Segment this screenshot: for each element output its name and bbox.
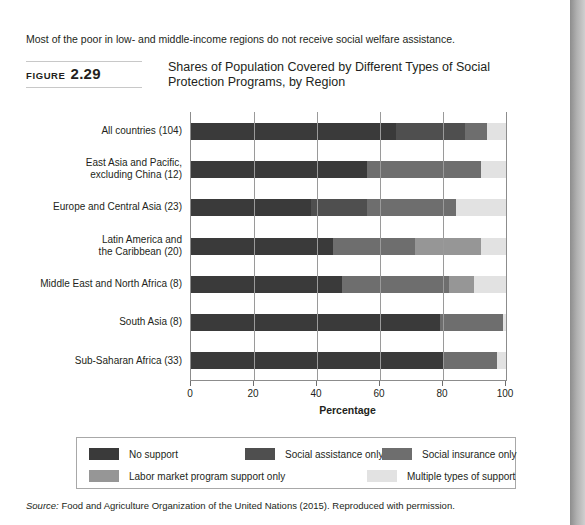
legend-swatch — [89, 448, 119, 460]
legend-label: Social assistance only — [285, 449, 383, 460]
x-axis-title: Percentage — [190, 404, 505, 416]
figure-label-word: FIGURE — [26, 70, 66, 81]
page-edge-shadow — [570, 0, 585, 525]
figure-header: FIGURE2.29 Shares of Population Covered … — [26, 60, 546, 90]
x-axis-tick-label: 20 — [233, 388, 273, 399]
legend-item[interactable]: Social insurance only — [382, 444, 517, 464]
stacked-bar[interactable] — [191, 276, 506, 293]
category-label: Latin America andthe Caribbean (20) — [26, 234, 182, 259]
bar-segment — [191, 161, 367, 178]
category-label: Sub-Saharan Africa (33) — [26, 355, 182, 368]
bar-segment — [487, 123, 506, 140]
headline-text: Most of the poor in low- and middle-inco… — [26, 32, 546, 46]
stacked-bar[interactable] — [191, 238, 506, 255]
bar-segment — [342, 276, 449, 293]
category-label-line: Middle East and North Africa (8) — [26, 278, 182, 291]
category-label: Middle East and North Africa (8) — [26, 278, 182, 291]
bar-segment — [367, 161, 480, 178]
legend-item[interactable]: Multiple types of support — [367, 466, 515, 486]
category-axis-labels: All countries (104)East Asia and Pacific… — [26, 112, 182, 380]
bar-row — [191, 238, 506, 255]
bar-segment — [333, 238, 415, 255]
bar-row — [191, 161, 506, 178]
legend-item[interactable]: No support — [89, 444, 178, 464]
x-axis-tick-label: 0 — [170, 388, 210, 399]
bar-segment — [503, 314, 506, 331]
chart-legend: No supportSocial assistance onlySocial i… — [76, 437, 516, 489]
x-axis-tick — [190, 381, 191, 386]
bar-segment — [191, 199, 311, 216]
bar-row — [191, 276, 506, 293]
stacked-bar[interactable] — [191, 199, 506, 216]
legend-label: Multiple types of support — [407, 471, 515, 482]
legend-swatch — [367, 470, 397, 482]
figure-rule-bottom — [26, 87, 142, 88]
stacked-bar[interactable] — [191, 161, 506, 178]
figure-tag: FIGURE2.29 — [26, 62, 146, 87]
category-label: South Asia (8) — [26, 316, 182, 329]
x-axis-tick — [505, 381, 506, 386]
legend-swatch — [89, 470, 119, 482]
bar-segment — [191, 276, 342, 293]
bar-segment — [497, 352, 506, 369]
bar-segment — [481, 238, 506, 255]
x-axis-tick — [253, 381, 254, 386]
bars-container — [191, 112, 506, 380]
figure-tag-block: FIGURE2.29 — [26, 60, 146, 88]
bar-segment — [449, 276, 474, 293]
category-label: East Asia and Pacific,excluding China (1… — [26, 157, 182, 182]
category-label-line: East Asia and Pacific, — [26, 157, 182, 170]
source-prefix: Source: — [26, 500, 59, 511]
category-label-line: the Caribbean (20) — [26, 246, 182, 259]
bar-row — [191, 352, 506, 369]
bar-row — [191, 199, 506, 216]
stacked-bar[interactable] — [191, 314, 506, 331]
category-label-line: Europe and Central Asia (23) — [26, 201, 182, 214]
bar-segment — [191, 238, 333, 255]
category-label-line: South Asia (8) — [26, 316, 182, 329]
bar-row — [191, 314, 506, 331]
source-note: Source: Food and Agriculture Organizatio… — [26, 500, 546, 511]
legend-item[interactable]: Social assistance only — [245, 444, 383, 464]
category-label-line: All countries (104) — [26, 125, 182, 138]
stacked-bar[interactable] — [191, 123, 506, 140]
bar-segment — [474, 276, 506, 293]
bar-segment — [415, 238, 481, 255]
bar-segment — [440, 314, 503, 331]
bar-segment — [456, 199, 506, 216]
gridline-60 — [380, 112, 381, 380]
legend-label: No support — [129, 449, 178, 460]
plot-area — [190, 112, 507, 381]
x-axis-tick-label: 80 — [422, 388, 462, 399]
legend-swatch — [382, 448, 412, 460]
x-axis-tick — [379, 381, 380, 386]
category-label: Europe and Central Asia (23) — [26, 201, 182, 214]
bar-segment — [191, 123, 396, 140]
category-label-line: Latin America and — [26, 234, 182, 247]
gridline-20 — [254, 112, 255, 380]
category-label: All countries (104) — [26, 125, 182, 138]
legend-label: Labor market program support only — [129, 471, 285, 482]
category-label-line: excluding China (12) — [26, 169, 182, 182]
x-axis-tick-label: 40 — [296, 388, 336, 399]
stacked-bar[interactable] — [191, 352, 506, 369]
bar-segment — [465, 123, 487, 140]
figure-label-number: 2.29 — [71, 65, 101, 82]
x-axis-tick — [316, 381, 317, 386]
figure-title: Shares of Population Covered by Differen… — [146, 60, 546, 90]
bar-segment — [396, 123, 465, 140]
bar-segment — [191, 314, 440, 331]
x-axis-tick — [442, 381, 443, 386]
chart: All countries (104)East Asia and Pacific… — [26, 112, 546, 412]
legend-item[interactable]: Labor market program support only — [89, 466, 285, 486]
gridline-80 — [443, 112, 444, 380]
figure-page: Most of the poor in low- and middle-inco… — [0, 0, 570, 525]
bar-segment — [311, 199, 368, 216]
bar-row — [191, 123, 506, 140]
legend-label: Social insurance only — [422, 449, 517, 460]
x-axis-tick-label: 100 — [485, 388, 525, 399]
category-label-line: Sub-Saharan Africa (33) — [26, 355, 182, 368]
source-text: Food and Agriculture Organization of the… — [59, 500, 455, 511]
bar-segment — [443, 352, 497, 369]
x-axis-tick-label: 60 — [359, 388, 399, 399]
